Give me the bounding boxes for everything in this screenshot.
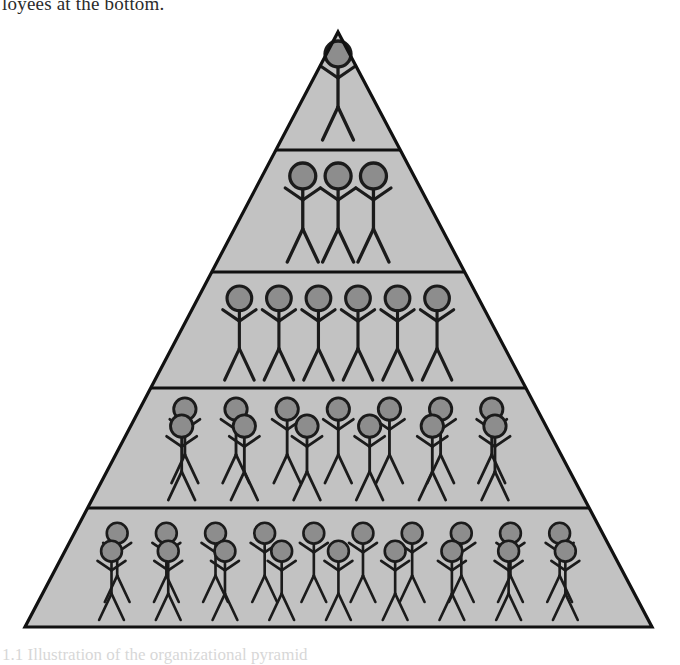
figure-head	[215, 541, 236, 562]
figure-head	[327, 398, 349, 420]
figure-head	[171, 415, 193, 437]
figure-head	[325, 163, 351, 189]
figure-head	[101, 541, 122, 562]
caption-bottom-text: 1.1 Illustration of the organizational p…	[2, 645, 680, 665]
figure-head	[385, 286, 410, 311]
figure-head	[267, 286, 292, 311]
figure-head	[402, 523, 423, 544]
figure-head	[290, 163, 316, 189]
figure-head	[233, 415, 255, 437]
figure-head	[346, 286, 371, 311]
figure-head	[254, 523, 275, 544]
figure-head	[353, 523, 374, 544]
figure-head	[555, 541, 576, 562]
figure-head	[358, 415, 380, 437]
figure-head	[360, 163, 386, 189]
figure-head	[276, 398, 298, 420]
figure-head	[227, 286, 252, 311]
figure-head	[441, 541, 462, 562]
figure-head	[498, 541, 519, 562]
figure-head	[296, 415, 318, 437]
figure-head	[158, 541, 179, 562]
figure-head	[421, 415, 443, 437]
figure-head	[425, 286, 450, 311]
figure-head	[328, 541, 349, 562]
figure-head	[306, 286, 331, 311]
figure-head	[325, 41, 351, 67]
figure-head	[385, 541, 406, 562]
figure-head	[378, 398, 400, 420]
figure-head	[271, 541, 292, 562]
figure-head	[484, 415, 506, 437]
figure-head	[303, 523, 324, 544]
